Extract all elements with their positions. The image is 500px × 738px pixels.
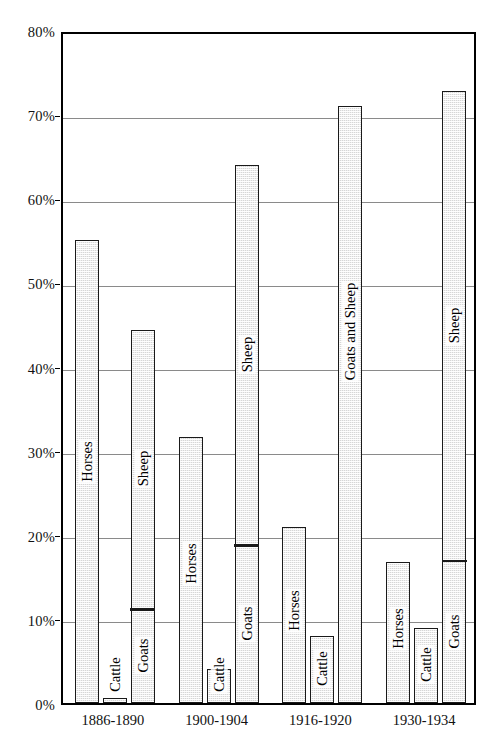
stack-divider [130,608,155,610]
y-axis: 0%10%20%30%40%50%60%70%80% [0,32,55,705]
bar-label-horses: Horses [79,439,96,483]
bar-label-goats: Goats [135,637,152,675]
plot-area: HorsesCattleGoatsSheepHorsesCattleGoatsS… [61,32,476,705]
bar-label-cattle: Cattle [210,655,227,694]
gridline [63,286,474,287]
bar-goats-and-sheep: Goats and Sheep [338,106,362,703]
y-axis-tick-mark [55,368,60,369]
y-axis-tick-mark [55,284,60,285]
gridline [63,370,474,371]
bar-label-sheep: Sheep [238,335,255,374]
x-axis-tick-label: 1886-1890 [81,712,144,729]
stack-divider [234,544,259,546]
y-axis-tick-mark [55,116,60,117]
bar-goats-and-sheep: GoatsSheep [235,165,259,703]
gridline [63,118,474,119]
bar-label-horses: Horses [182,542,199,586]
y-axis-tick-mark [55,200,60,201]
bar-label-sheep: Sheep [135,449,152,488]
x-axis-tick-label: 1930-1934 [393,712,456,729]
bar-horses: Horses [179,437,203,703]
bar-label-cattle: Cattle [107,655,124,694]
bar-goats-and-sheep: GoatsSheep [442,91,466,703]
bar-cattle: Cattle [414,628,438,703]
y-axis-tick-label: 20% [5,528,55,545]
y-axis-tick-label: 60% [5,192,55,209]
bar-cattle: Cattle [207,669,231,703]
bar-label-goats: Goats [238,605,255,643]
gridline [63,202,474,203]
bar-label-cattle: Cattle [418,645,435,684]
y-axis-tick-label: 0% [5,697,55,714]
bar-cattle: Cattle [310,636,334,703]
bar-horses: Horses [282,527,306,703]
y-axis-tick-label: 10% [5,612,55,629]
gridline [63,454,474,455]
y-axis-tick-mark [55,620,60,621]
bar-label-goats: Goats [446,612,463,650]
bar-horses: Horses [75,240,99,703]
y-axis-tick-label: 40% [5,360,55,377]
y-axis-tick-label: 30% [5,444,55,461]
bar-cattle: Cattle [103,698,127,703]
bar-label-horses: Horses [286,588,303,632]
y-axis-tick-label: 80% [5,24,55,41]
y-axis-tick-mark [55,536,60,537]
bar-label-cattle: Cattle [314,649,331,688]
gridline [63,622,474,623]
x-axis-tick-label: 1900-1904 [185,712,248,729]
bar-label-horses: Horses [390,606,407,650]
gridline [63,538,474,539]
bar-label-sheep: Sheep [446,305,463,344]
y-axis-tick-label: 50% [5,276,55,293]
bar-goats-and-sheep: GoatsSheep [131,330,155,704]
y-axis-tick-label: 70% [5,108,55,125]
y-axis-tick-mark [55,452,60,453]
bar-chart: 0%10%20%30%40%50%60%70%80% HorsesCattleG… [0,0,500,738]
x-axis-tick-label: 1916-1920 [289,712,352,729]
bar-label-goats-and-sheep: Goats and Sheep [342,281,359,382]
stack-divider [442,560,467,562]
bar-horses: Horses [386,562,410,703]
